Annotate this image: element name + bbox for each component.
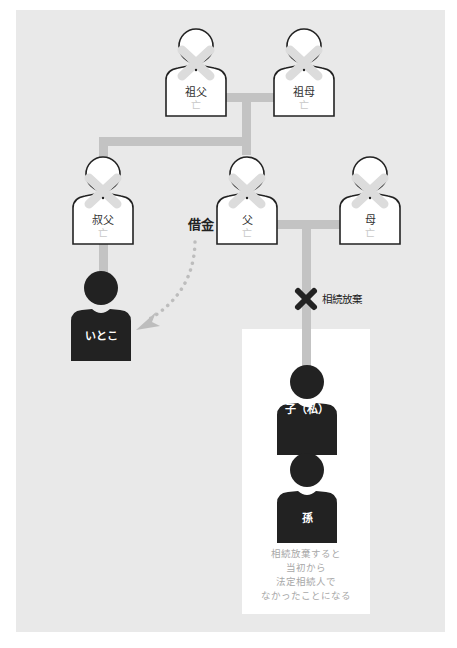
renounce-note: 相続放棄すると 当初から 法定相続人で なかったことになる (242, 547, 370, 603)
mother-name: 母 (338, 214, 402, 227)
grandmother-label: 祖母 亡 (272, 86, 336, 112)
father-status: 亡 (215, 227, 279, 240)
father-label: 父 亡 (215, 214, 279, 240)
debt-label: 借金 (188, 214, 214, 233)
grandchild-name: 孫 (276, 512, 338, 525)
father-name: 父 (215, 214, 279, 227)
grandmother-status: 亡 (272, 99, 336, 112)
grandmother-name: 祖母 (272, 86, 336, 99)
uncle-status: 亡 (71, 227, 135, 240)
cousin-figure (70, 271, 132, 363)
child-name: 子（私） (276, 403, 338, 416)
mother-status: 亡 (338, 227, 402, 240)
renounce-cross-icon (295, 288, 317, 310)
cousin-name: いとこ (70, 330, 132, 343)
cousin-label: いとこ (70, 330, 132, 343)
note-line: 相続放棄すると (242, 547, 370, 561)
grandchild-label: 孫 (276, 512, 338, 525)
child-label: 子（私） (276, 403, 338, 416)
note-line: 当初から (242, 561, 370, 575)
uncle-name: 叔父 (71, 214, 135, 227)
note-line: なかったことになる (242, 589, 370, 603)
grandchild-figure (276, 453, 338, 545)
grandfather-status: 亡 (164, 99, 228, 112)
grandfather-label: 祖父 亡 (164, 86, 228, 112)
note-line: 法定相続人で (242, 575, 370, 589)
renounce-label: 相続放棄 (322, 291, 362, 306)
debt-arrow (130, 238, 220, 338)
uncle-label: 叔父 亡 (71, 214, 135, 240)
mother-label: 母 亡 (338, 214, 402, 240)
siblings-line (99, 137, 251, 146)
grandfather-name: 祖父 (164, 86, 228, 99)
